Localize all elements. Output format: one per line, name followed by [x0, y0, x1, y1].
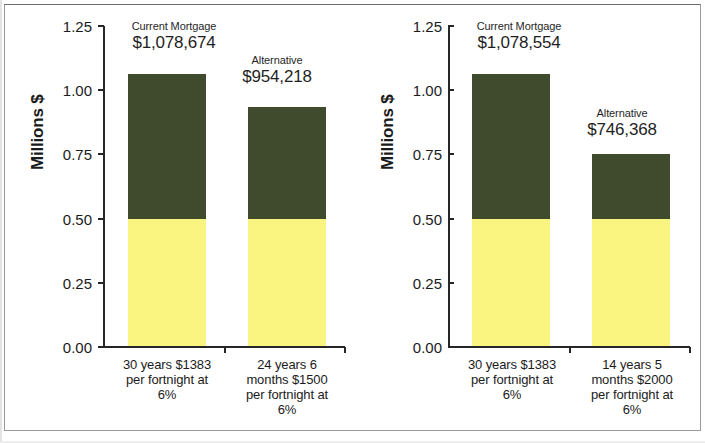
x-category-line: 6% [453, 387, 571, 402]
bar-annotation: Current Mortgage $1,078,674 [104, 20, 244, 53]
x-category-line: months $1500 [228, 372, 346, 387]
x-category-line: 30 years $1383 [453, 357, 571, 372]
x-category-line: 14 years 5 [573, 357, 691, 372]
chart-panel-right: Millions $ 1.25 1.00 0.75 0.50 0.25 0.00… [345, 0, 705, 443]
bar-annotation: Current Mortgage $1,078,554 [449, 20, 589, 53]
bar-segment-interest [248, 107, 326, 219]
y-tick-label: 0.50 [390, 211, 442, 228]
x-axis-tick [569, 347, 571, 353]
bar-annotation: Alternative $746,368 [552, 107, 692, 140]
bar-annotation-value: $954,218 [207, 67, 347, 87]
bar-segment-interest [128, 74, 206, 219]
y-tick-label: 1.25 [390, 18, 442, 35]
x-category-line: 6% [228, 402, 346, 417]
bar-stack [128, 74, 206, 346]
bar-stack [472, 74, 550, 346]
y-axis-line-right [448, 26, 450, 348]
x-axis-tick [689, 347, 691, 353]
x-category-label: 14 years 5 months $2000 per fortnight at… [573, 357, 691, 417]
y-tick-label: 1.25 [40, 18, 92, 35]
bar-stack [592, 154, 670, 346]
y-tick-label: 0.75 [40, 146, 92, 163]
bar-annotation-name: Current Mortgage [104, 20, 244, 33]
bar-annotation-name: Current Mortgage [449, 20, 589, 33]
x-category-line: months $2000 [573, 372, 691, 387]
bar-annotation-value: $1,078,674 [104, 33, 244, 53]
x-category-line: per fortnight at [228, 387, 346, 402]
bar-stack [248, 107, 326, 346]
y-axis-line-left [103, 26, 105, 348]
bar-annotation-value: $746,368 [552, 120, 692, 140]
y-tick-label: 0.00 [40, 339, 92, 356]
bar-segment-principal [592, 219, 670, 346]
x-category-line: 24 years 6 [228, 357, 346, 372]
x-category-line: 6% [108, 387, 226, 402]
y-tick-label: 0.75 [390, 146, 442, 163]
x-category-label: 30 years $1383 per fortnight at 6% [108, 357, 226, 402]
x-category-line: 6% [573, 402, 691, 417]
bar-annotation: Alternative $954,218 [207, 54, 347, 87]
y-tick-label: 0.25 [390, 275, 442, 292]
y-tick-label: 0.50 [40, 211, 92, 228]
bar-annotation-name: Alternative [552, 107, 692, 120]
y-tick-label: 1.00 [40, 82, 92, 99]
bar-segment-interest [472, 74, 550, 219]
bar-annotation-name: Alternative [207, 54, 347, 67]
x-category-line: 30 years $1383 [108, 357, 226, 372]
x-category-label: 30 years $1383 per fortnight at 6% [453, 357, 571, 402]
x-category-label: 24 years 6 months $1500 per fortnight at… [228, 357, 346, 417]
bar-annotation-value: $1,078,554 [449, 33, 589, 53]
bar-segment-interest [592, 154, 670, 219]
x-category-line: per fortnight at [108, 372, 226, 387]
bar-segment-principal [248, 219, 326, 346]
bar-segment-principal [472, 219, 550, 346]
y-tick-label: 0.00 [390, 339, 442, 356]
x-category-line: per fortnight at [453, 372, 571, 387]
chart-page: Millions $ 1.25 1.00 0.75 0.50 0.25 0.00… [0, 0, 705, 443]
x-axis-tick [224, 347, 226, 353]
y-tick-label: 1.00 [390, 82, 442, 99]
chart-panel-left: Millions $ 1.25 1.00 0.75 0.50 0.25 0.00… [0, 0, 352, 443]
y-tick-label: 0.25 [40, 275, 92, 292]
bar-segment-principal [128, 219, 206, 346]
x-category-line: per fortnight at [573, 387, 691, 402]
